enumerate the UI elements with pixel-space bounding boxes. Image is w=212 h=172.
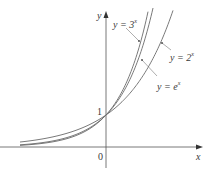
- label-3x: y = 3x: [113, 16, 137, 30]
- y-axis-arrow-icon: [104, 11, 109, 18]
- y-axis: [104, 11, 109, 168]
- x-axis-label: x: [196, 152, 200, 162]
- y-axis-label: y: [97, 11, 101, 21]
- origin-label: 0: [98, 152, 103, 162]
- label-2x: y = 2x: [170, 49, 194, 63]
- x-axis-arrow-icon: [196, 145, 203, 150]
- x-axis: [0, 145, 203, 150]
- label-ex: y = ex: [157, 78, 180, 92]
- tick-label-one: 1: [97, 107, 102, 117]
- curve-2x: [20, 10, 173, 142]
- curve-3x: [20, 12, 148, 146]
